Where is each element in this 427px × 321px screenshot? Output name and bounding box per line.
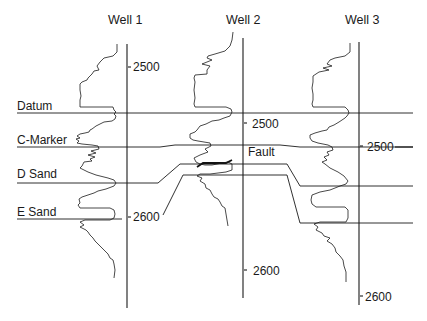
horizon-label-e-sand: E Sand <box>17 205 56 219</box>
well-3-tick-2600: 2600 <box>365 290 392 304</box>
well-2-tick-2500: 2500 <box>252 117 279 131</box>
horizon-label-d-sand: D Sand <box>17 167 57 181</box>
well-1-log-curve <box>76 44 117 278</box>
well-3-log-curve <box>310 43 350 282</box>
well-1-tick-2600: 2600 <box>133 210 160 224</box>
fault-mark <box>197 160 232 167</box>
well-2-tick-2600: 2600 <box>253 264 280 278</box>
well-2-depth-axis: 2500 2600 <box>243 38 280 298</box>
horizon-label-datum: Datum <box>17 99 52 113</box>
well-1-depth-axis: 2500 2600 <box>127 44 160 308</box>
well-3-depth-axis: 2500 2600 <box>359 42 413 305</box>
fault-label: Fault <box>248 145 275 159</box>
well-1-tick-2500: 2500 <box>133 60 160 74</box>
e-sand-fault-line <box>163 175 413 223</box>
horizon-label-c-marker: C-Marker <box>17 133 67 147</box>
well-2-log-curve <box>190 32 233 226</box>
c-marker-line <box>17 145 413 147</box>
well-2-title: Well 2 <box>226 13 261 27</box>
well-3-title: Well 3 <box>345 13 380 27</box>
well-1-title: Well 1 <box>108 13 143 27</box>
correlation-diagram: Well 1 Well 2 Well 3 2500 2600 2500 2600… <box>0 0 427 321</box>
